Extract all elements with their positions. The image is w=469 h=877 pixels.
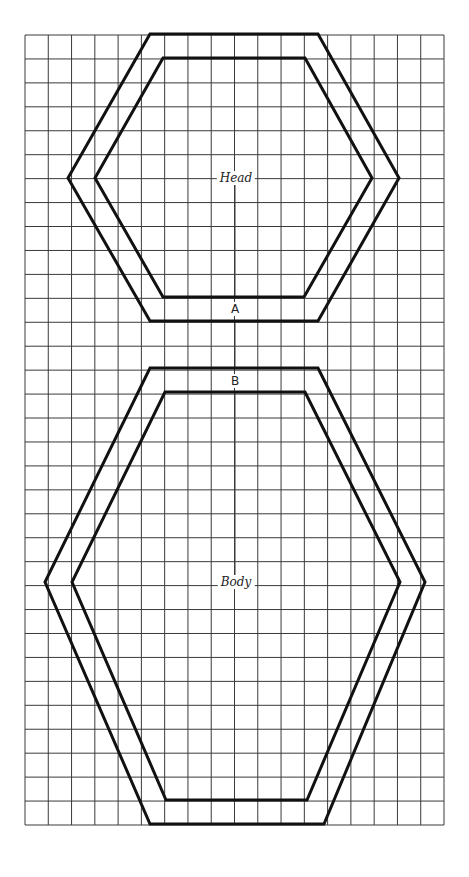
marker-a-label: A	[228, 302, 242, 316]
diagram-canvas	[0, 0, 469, 877]
head-label: Head	[217, 171, 255, 185]
body-label: Body	[218, 575, 255, 589]
pattern-diagram: Head Body A B	[0, 0, 469, 877]
marker-b-label: B	[228, 374, 242, 388]
